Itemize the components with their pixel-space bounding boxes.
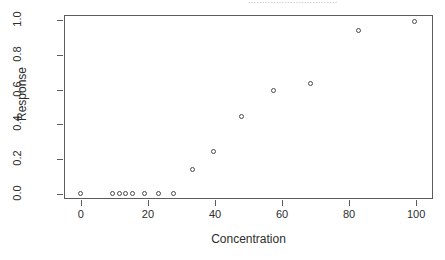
scatter-plot: ................................ 0204060… [0,0,445,260]
data-point [78,191,83,196]
data-point [117,191,122,196]
data-point [110,191,115,196]
x-tick-label: 100 [396,208,436,220]
y-tick [57,194,63,195]
data-point [190,167,195,172]
plot-frame [64,15,433,199]
x-tick [416,200,417,206]
x-tick-label: 0 [61,208,101,220]
y-tick [57,90,63,91]
x-axis-title: Concentration [64,232,433,246]
data-point [412,19,417,24]
data-point [356,28,361,33]
data-point [142,191,147,196]
x-tick [215,200,216,206]
x-tick [349,200,350,206]
x-tick-label: 60 [262,208,302,220]
x-tick [148,200,149,206]
y-tick [57,20,63,21]
y-tick [57,55,63,56]
x-tick-label: 40 [195,208,235,220]
x-tick-label: 20 [128,208,168,220]
scan-header-text: ................................ [248,0,443,4]
y-axis-title: Response [15,34,29,154]
x-tick [282,200,283,206]
y-tick-label: 1.0 [11,2,23,36]
y-tick [57,124,63,125]
y-tick [57,159,63,160]
x-tick-label: 80 [329,208,369,220]
y-tick-label: 0.0 [11,176,23,210]
x-tick [81,200,82,206]
